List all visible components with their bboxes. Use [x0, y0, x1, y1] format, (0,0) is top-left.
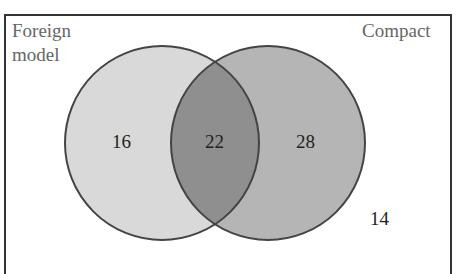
set-label-compact: Compact — [362, 19, 431, 43]
count-foreign-only: 16 — [112, 131, 131, 153]
label-line-1: Foreign — [12, 19, 71, 43]
count-outside: 14 — [370, 208, 389, 230]
set-label-foreign-model: Foreign model — [12, 19, 71, 67]
label-line-2: model — [12, 43, 71, 67]
count-compact-only: 28 — [296, 131, 315, 153]
count-intersection: 22 — [205, 131, 224, 153]
